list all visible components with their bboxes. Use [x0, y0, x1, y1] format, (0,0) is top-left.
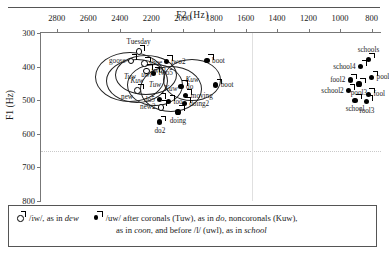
- legend-uw-a: /uw/ after coronals (Tuw), as in: [106, 213, 216, 223]
- x-tick: [151, 29, 152, 33]
- data-point-label: school2: [321, 88, 343, 95]
- legend-uw-b: , noncoronals (Kuw),: [224, 213, 297, 223]
- marker-tail-icon: [356, 94, 362, 100]
- data-point-label: fool: [373, 91, 385, 98]
- data-point-label: new2: [140, 104, 156, 111]
- y-tick-label: 400: [17, 62, 35, 72]
- data-point-label: doing2: [189, 101, 209, 108]
- data-point-label: fool2: [330, 77, 345, 84]
- marker-tail-icon: [350, 84, 356, 90]
- filled-circle-tail-marker-icon: [93, 212, 106, 222]
- legend-entry-iw: /iw/, as in dew/uw/ after coronals (Tuw)…: [16, 211, 370, 225]
- y-tick-label: 300: [17, 28, 35, 38]
- x-tick-label: 800: [365, 13, 378, 23]
- data-point-label: pool: [377, 74, 389, 81]
- y-tick-label: 500: [17, 95, 35, 105]
- x-tick: [214, 29, 215, 33]
- open-circle-tail-marker-icon: [16, 212, 29, 222]
- data-point-label: Tuesday: [127, 39, 151, 46]
- legend-uw-example2: coon: [134, 225, 151, 235]
- top-rule: [8, 7, 380, 8]
- x-tick-label: 1800: [206, 13, 223, 23]
- data-point-label: too: [174, 99, 183, 106]
- data-point-label: do5: [144, 97, 155, 104]
- legend-entry-iw-text: /iw/, as in dew/uw/ after coronals (Tuw)…: [29, 211, 370, 225]
- legend-uw-example3: school: [244, 225, 266, 235]
- y-tick: [37, 134, 41, 135]
- data-point-label: new: [121, 94, 133, 101]
- legend-iw-pre: /iw/, as in: [29, 213, 65, 223]
- data-point-label: fool3: [359, 108, 374, 115]
- data-point-label: schools: [358, 47, 380, 54]
- x-tick: [246, 29, 247, 33]
- x-tick: [57, 29, 58, 33]
- marker-tail-icon: [362, 60, 368, 66]
- legend-uw-c: as in: [116, 225, 134, 235]
- y-tick: [37, 67, 41, 68]
- marker-tail-icon: [132, 54, 138, 60]
- legend-iw-example: dew: [65, 213, 79, 223]
- data-point-label: two5: [159, 70, 173, 77]
- x-tick-label: 2800: [48, 13, 65, 23]
- data-point-label: do2: [154, 128, 165, 135]
- legend-uw-d: , and before /l/ (uwl), as in: [151, 225, 244, 235]
- x-tick: [309, 29, 310, 33]
- subgroup-label: Tuw: [149, 81, 161, 89]
- x-tick-label: 2000: [174, 13, 191, 23]
- data-point-label: boot: [221, 82, 234, 89]
- x-tick-label: 2200: [143, 13, 160, 23]
- plot-area: 2800260024002200200018001600140012001000…: [40, 32, 381, 201]
- legend-box: /iw/, as in dew/uw/ after coronals (Tuw)…: [8, 205, 377, 247]
- x-tick-label: 1400: [269, 13, 286, 23]
- marker-tail-icon: [360, 78, 366, 84]
- marker-tail-icon: [138, 84, 144, 90]
- y-tick: [37, 201, 41, 202]
- x-tick: [340, 29, 341, 33]
- marker-tail-icon: [161, 93, 167, 99]
- data-point-label: goose: [109, 58, 126, 65]
- data-point-label: doing: [170, 118, 186, 125]
- marker-tail-icon: [161, 116, 167, 122]
- x-tick: [183, 29, 184, 33]
- x-tick: [120, 29, 121, 33]
- x-tick: [372, 29, 373, 33]
- x-tick-label: 1000: [332, 13, 349, 23]
- y-axis-title: F1 (Hz): [5, 75, 15, 135]
- y-tick-label: 600: [17, 129, 35, 139]
- marker-tail-icon: [368, 95, 374, 101]
- x-tick: [277, 29, 278, 33]
- x-tick: [88, 29, 89, 33]
- data-point-label: boot: [212, 58, 225, 65]
- data-point-label: school4: [333, 64, 355, 71]
- marker-tail-icon: [351, 74, 357, 80]
- x-tick-label: 2400: [111, 13, 128, 23]
- gridline-horizontal: [41, 151, 381, 152]
- y-tick-label: 700: [17, 162, 35, 172]
- data-point-label: moving: [191, 93, 213, 100]
- gridline-vertical: [252, 33, 253, 201]
- y-tick: [37, 100, 41, 101]
- x-tick-label: 1600: [237, 13, 254, 23]
- y-tick: [37, 167, 41, 168]
- marker-tail-icon: [179, 105, 185, 111]
- data-point-label: two2: [171, 59, 185, 66]
- legend-entry-uw-line2: as in coon, and before /l/ (uwl), as in …: [116, 225, 370, 237]
- x-tick-label: 2600: [80, 13, 97, 23]
- x-tick-label: 1200: [300, 13, 317, 23]
- y-tick: [37, 33, 41, 34]
